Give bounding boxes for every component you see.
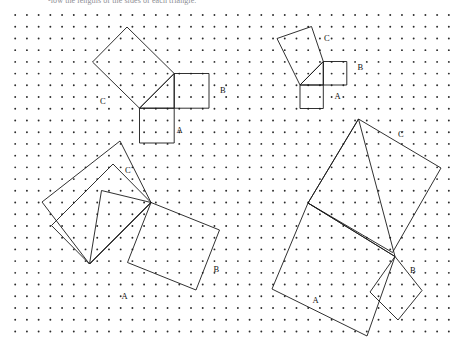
grid-dot	[436, 131, 438, 133]
grid-dot	[61, 26, 63, 28]
grid-dot	[260, 37, 262, 39]
square-labels-layer: ABCABCABCABC	[100, 33, 416, 306]
grid-dot	[237, 84, 239, 86]
grid-dot	[389, 202, 391, 204]
grid-dot	[249, 26, 251, 28]
grid-dot	[296, 37, 298, 39]
grid-dot	[378, 237, 380, 239]
grid-dot	[319, 213, 321, 215]
grid-dot	[331, 178, 333, 180]
grid-dot	[120, 73, 122, 75]
grid-dot	[237, 155, 239, 157]
grid-dot	[366, 272, 368, 274]
grid-dot	[366, 330, 368, 332]
grid-dot	[401, 213, 403, 215]
grid-dot	[389, 307, 391, 309]
grid-dot	[424, 225, 426, 227]
grid-dot	[401, 307, 403, 309]
grid-dot	[436, 260, 438, 262]
grid-dot	[249, 307, 251, 309]
grid-dot	[436, 26, 438, 28]
grid-dot	[225, 61, 227, 63]
grid-dot	[96, 319, 98, 321]
grid-dot	[401, 248, 403, 250]
grid-dot	[272, 166, 274, 168]
grid-dot	[249, 272, 251, 274]
grid-dot	[296, 143, 298, 145]
grid-dot	[190, 14, 192, 16]
grid-dot	[131, 155, 133, 157]
grid-dot	[131, 284, 133, 286]
grid-dot	[143, 49, 145, 51]
grid-dot	[61, 37, 63, 39]
grid-dot	[202, 49, 204, 51]
grid-dot	[424, 108, 426, 110]
grid-dot	[389, 155, 391, 157]
grid-dot	[190, 84, 192, 86]
grid-dot	[213, 143, 215, 145]
grid-dot	[85, 330, 87, 332]
grid-dot	[436, 108, 438, 110]
grid-dot	[342, 295, 344, 297]
grid-dot	[38, 131, 40, 133]
grid-dot	[331, 213, 333, 215]
grid-dot	[260, 295, 262, 297]
figure-3-label-c: C	[125, 165, 131, 175]
grid-dot	[284, 96, 286, 98]
grid-dot	[178, 14, 180, 16]
grid-dot	[120, 190, 122, 192]
grid-dot	[389, 248, 391, 250]
grid-dot	[96, 225, 98, 227]
grid-dot	[38, 84, 40, 86]
grid-dot	[342, 260, 344, 262]
grid-dot	[108, 260, 110, 262]
grid-dot	[401, 190, 403, 192]
grid-dot	[213, 120, 215, 122]
grid-dot	[448, 178, 450, 180]
grid-dot	[167, 202, 169, 204]
grid-dot	[202, 202, 204, 204]
grid-dot	[249, 295, 251, 297]
grid-dot	[237, 272, 239, 274]
grid-dot	[143, 213, 145, 215]
grid-dot	[237, 330, 239, 332]
figure-1-label-a: A	[177, 125, 184, 135]
grid-dot	[307, 213, 309, 215]
grid-dot	[213, 330, 215, 332]
grid-dot	[424, 284, 426, 286]
grid-dot	[85, 295, 87, 297]
grid-dot	[366, 213, 368, 215]
grid-dot	[120, 26, 122, 28]
grid-dot	[167, 178, 169, 180]
grid-dot	[38, 295, 40, 297]
grid-dot	[49, 272, 51, 274]
grid-dot	[296, 202, 298, 204]
grid-dot	[378, 108, 380, 110]
figure-4-label-c: C	[398, 129, 404, 139]
grid-dot	[260, 14, 262, 16]
grid-dot	[342, 307, 344, 309]
grid-dot	[366, 61, 368, 63]
grid-dot	[73, 96, 75, 98]
grid-dot	[14, 295, 16, 297]
grid-dot	[448, 295, 450, 297]
grid-dot	[49, 166, 51, 168]
grid-dot	[319, 248, 321, 250]
grid-dot	[284, 330, 286, 332]
grid-dot	[319, 178, 321, 180]
grid-dot	[38, 307, 40, 309]
grid-dot	[73, 330, 75, 332]
grid-dot	[73, 120, 75, 122]
grid-dot	[143, 84, 145, 86]
grid-dot	[307, 178, 309, 180]
grid-dot	[49, 131, 51, 133]
grid-dot	[108, 330, 110, 332]
grid-dot	[354, 213, 356, 215]
grid-dot	[284, 202, 286, 204]
grid-dot	[389, 26, 391, 28]
grid-dot	[167, 225, 169, 227]
grid-dot	[436, 190, 438, 192]
figure-4-square-a	[272, 203, 395, 336]
grid-dot	[342, 131, 344, 133]
grid-dot	[401, 84, 403, 86]
